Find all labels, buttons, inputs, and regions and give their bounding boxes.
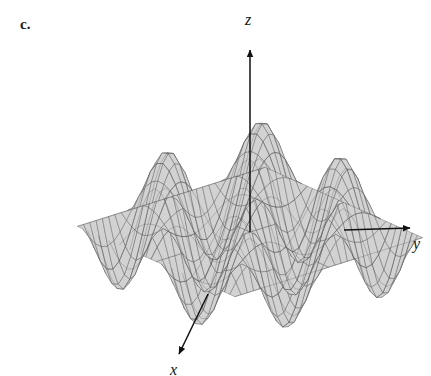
z-axis-label: z bbox=[245, 12, 251, 28]
surface-plot bbox=[0, 0, 431, 376]
y-axis-label: y bbox=[413, 236, 420, 252]
x-axis-label: x bbox=[170, 362, 177, 376]
figure-container: c. z y x bbox=[0, 0, 431, 376]
